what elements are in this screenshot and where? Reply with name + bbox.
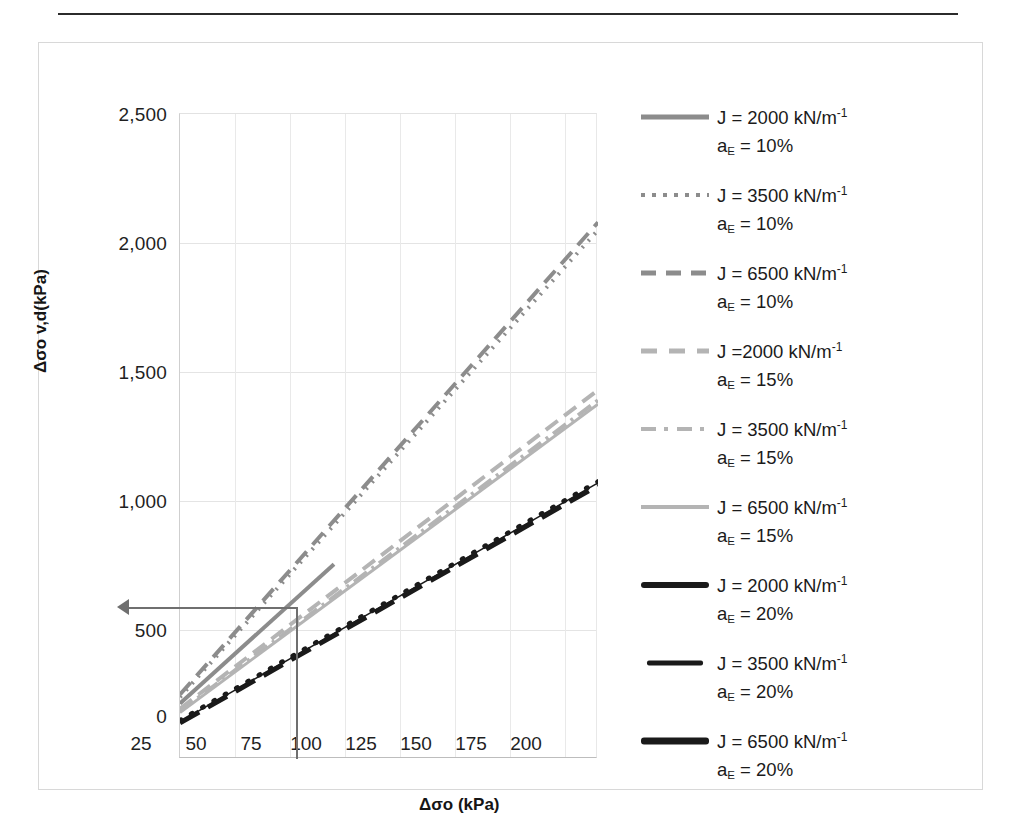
- legend-exponent: -1: [832, 340, 843, 354]
- legend-swatch-bar: [641, 193, 709, 197]
- series-line: [180, 222, 598, 694]
- y-axis-title: Δσo v,d(kPa): [31, 269, 51, 373]
- legend-item-label: J = 2000 kN/m-1aE = 20%: [717, 573, 847, 629]
- legend-swatch-bar: [647, 661, 703, 666]
- legend-exponent: -1: [837, 418, 848, 432]
- legend-item-stiffness: J = 6500 kN/m-1: [717, 731, 847, 752]
- legend-subscript: E: [727, 613, 735, 625]
- legend-swatch-bar: [641, 115, 709, 120]
- legend-item-strain: aE = 15%: [717, 367, 842, 395]
- legend-exponent: -1: [837, 184, 848, 198]
- legend-swatch-bar: [641, 349, 709, 354]
- y-tick-label-1000: 1,000: [57, 491, 167, 513]
- legend-item-label: J = 6500 kN/m-1aE = 15%: [717, 495, 847, 551]
- series-line: [180, 230, 598, 697]
- y-tick-label-1500: 1,500: [57, 362, 167, 384]
- legend-item-strain: aE = 20%: [717, 757, 847, 785]
- legend-item-label: J = 3500 kN/m-1aE = 15%: [717, 417, 847, 473]
- legend-item-label: J = 6500 kN/m-1aE = 20%: [717, 729, 847, 785]
- legend-item[interactable]: J = 3500 kN/m-1aE = 20%: [639, 651, 847, 707]
- series-lines: [180, 114, 598, 759]
- legend-exponent: -1: [837, 652, 848, 666]
- x-axis-title: Δσo (kPa): [419, 795, 500, 815]
- legend-item[interactable]: J = 2000 kN/m-1aE = 10%: [639, 105, 847, 161]
- legend-item-strain: aE = 10%: [717, 289, 847, 317]
- series-line: [180, 390, 598, 709]
- legend-item-stiffness: J = 6500 kN/m-1: [717, 497, 847, 518]
- plot-area: [179, 113, 597, 758]
- legend-subscript: E: [727, 457, 735, 469]
- legend-exponent: -1: [837, 106, 848, 120]
- legend-item[interactable]: J = 3500 kN/m-1aE = 15%: [639, 417, 847, 473]
- legend-item-stiffness: J =2000 kN/m-1: [717, 341, 842, 362]
- legend-line-swatch-icon: [639, 185, 711, 205]
- y-tick-label-2000: 2,000: [57, 233, 167, 255]
- legend-line-swatch-icon: [639, 341, 711, 361]
- legend-item-strain: aE = 20%: [717, 601, 847, 629]
- y-tick-label-0: 0: [57, 706, 167, 728]
- legend-item[interactable]: J = 6500 kN/m-1aE = 15%: [639, 495, 847, 551]
- legend-item[interactable]: J = 2000 kN/m-1aE = 20%: [639, 573, 847, 629]
- legend-item-strain: aE = 20%: [717, 679, 847, 707]
- legend-exponent: -1: [837, 730, 848, 744]
- legend-line-swatch-icon: [639, 653, 711, 673]
- legend-line-swatch-icon: [639, 731, 711, 751]
- annotation-vertical-line: [296, 607, 298, 759]
- legend-item-strain: aE = 15%: [717, 445, 847, 473]
- y-tick-label-500: 500: [57, 620, 167, 642]
- legend-item-stiffness: J = 3500 kN/m-1: [717, 653, 847, 674]
- y-tick-label-2500: 2,500: [57, 104, 167, 126]
- series-line: [180, 483, 598, 722]
- legend-item-label: J = 3500 kN/m-1aE = 10%: [717, 183, 847, 239]
- legend-swatch-bar: [641, 271, 709, 276]
- annotation-arrow-line: [121, 607, 297, 609]
- legend-subscript: E: [727, 145, 735, 157]
- legend-line-swatch-icon: [639, 263, 711, 283]
- legend-item-label: J = 2000 kN/m-1aE = 10%: [717, 105, 847, 161]
- legend-swatch-bar: [641, 738, 709, 745]
- legend-item[interactable]: J = 6500 kN/m-1aE = 10%: [639, 261, 847, 317]
- legend-item-strain: aE = 10%: [717, 133, 847, 161]
- legend-item-stiffness: J = 3500 kN/m-1: [717, 185, 847, 206]
- legend-swatch-bar: [641, 427, 709, 431]
- legend-exponent: -1: [837, 496, 848, 510]
- legend-subscript: E: [727, 223, 735, 235]
- legend-item-strain: aE = 10%: [717, 211, 847, 239]
- legend-line-swatch-icon: [639, 575, 711, 595]
- legend-subscript: E: [727, 691, 735, 703]
- legend-item[interactable]: J =2000 kN/m-1aE = 15%: [639, 339, 842, 395]
- series-line: [180, 486, 598, 723]
- top-horizontal-rule: [58, 13, 958, 15]
- legend-item[interactable]: J = 6500 kN/m-1aE = 20%: [639, 729, 847, 785]
- legend-line-swatch-icon: [639, 419, 711, 439]
- legend-subscript: E: [727, 301, 735, 313]
- legend-item-label: J = 3500 kN/m-1aE = 20%: [717, 651, 847, 707]
- legend-item-stiffness: J = 6500 kN/m-1: [717, 263, 847, 284]
- legend-line-swatch-icon: [639, 107, 711, 127]
- legend-subscript: E: [727, 379, 735, 391]
- legend-item[interactable]: J = 3500 kN/m-1aE = 10%: [639, 183, 847, 239]
- legend-item-stiffness: J = 3500 kN/m-1: [717, 419, 847, 440]
- legend-line-swatch-icon: [639, 497, 711, 517]
- legend-item-strain: aE = 15%: [717, 523, 847, 551]
- legend-item-label: J = 6500 kN/m-1aE = 10%: [717, 261, 847, 317]
- legend-item-label: J =2000 kN/m-1aE = 15%: [717, 339, 842, 395]
- legend-item-stiffness: J = 2000 kN/m-1: [717, 575, 847, 596]
- figure-frame: Δσo v,d(kPa) 2,500 2,000 1,500 1,000 500…: [38, 42, 983, 790]
- legend-subscript: E: [727, 769, 735, 781]
- legend-item-stiffness: J = 2000 kN/m-1: [717, 107, 847, 128]
- series-line: [180, 564, 334, 703]
- legend-exponent: -1: [837, 574, 848, 588]
- series-line: [180, 404, 598, 712]
- legend-swatch-bar: [641, 505, 709, 509]
- legend-subscript: E: [727, 535, 735, 547]
- legend-exponent: -1: [837, 262, 848, 276]
- legend-swatch-bar: [641, 582, 709, 588]
